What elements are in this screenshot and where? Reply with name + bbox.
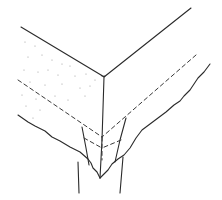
left-hidden-line-upper (18, 80, 102, 137)
diagram-svg (0, 0, 222, 200)
corner-joint-diagram (0, 0, 222, 200)
right-post-leg (120, 157, 123, 193)
top-right-edge (104, 8, 191, 77)
top-left-edge (21, 27, 105, 76)
left-face-stipple (21, 41, 95, 118)
right-broken-bottom-edge (100, 64, 210, 178)
left-broken-bottom-edge (18, 115, 100, 178)
left-hidden-line-lower (84, 138, 102, 148)
left-post-leg (78, 162, 79, 193)
left-post-inner-line (82, 127, 89, 165)
vertical-corner-edge (100, 77, 104, 178)
